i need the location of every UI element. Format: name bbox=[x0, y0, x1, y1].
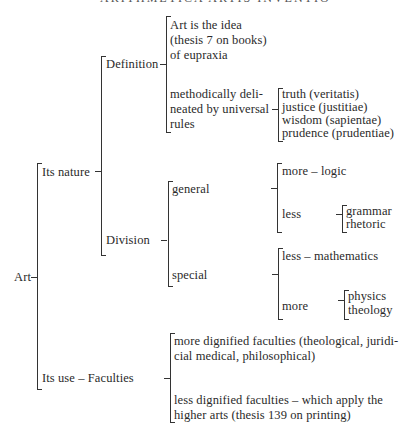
faculties-more-line2: cial medical, philosophical) bbox=[174, 349, 315, 363]
connector-division bbox=[161, 240, 167, 241]
virtue-truth: truth (veritatis) bbox=[282, 87, 359, 101]
special-more: more bbox=[282, 299, 308, 313]
faculties-less-line1: less dignified faculties – which apply t… bbox=[174, 393, 383, 407]
general-less: less bbox=[282, 207, 301, 221]
item-rhetoric: rhetoric bbox=[346, 217, 386, 231]
item-grammar: grammar bbox=[346, 204, 392, 218]
item-theology: theology bbox=[348, 303, 393, 317]
node-its-use: Its use – Faculties bbox=[42, 371, 134, 385]
bracket-art bbox=[37, 163, 42, 390]
def-idea-line3: of eupraxia bbox=[170, 48, 228, 62]
def-idea-line2: (thesis 7 on books) bbox=[170, 33, 267, 47]
def-method-line3: rules bbox=[170, 117, 195, 131]
bracket-nature bbox=[101, 56, 106, 256]
special-less-mathematics: less – mathematics bbox=[282, 249, 378, 263]
general-more-logic: more – logic bbox=[282, 164, 346, 178]
node-definition: Definition bbox=[106, 57, 158, 71]
node-general: general bbox=[172, 182, 209, 196]
node-art: Art bbox=[14, 270, 31, 284]
virtue-prudence: prudence (prudentiae) bbox=[282, 126, 394, 140]
running-head: ARITHMETICA ARTIS INVENTIO bbox=[100, 0, 331, 6]
item-physics: physics bbox=[348, 289, 386, 303]
faculties-more-line1: more dignified faculties (theological, j… bbox=[174, 334, 398, 348]
def-method-line1: methodically deli- bbox=[170, 87, 263, 101]
node-special: special bbox=[172, 268, 207, 282]
virtue-justice: justice (justitiae) bbox=[282, 100, 368, 114]
node-its-nature: Its nature bbox=[42, 165, 90, 179]
def-idea-line1: Art is the idea bbox=[170, 18, 242, 32]
node-division: Division bbox=[106, 233, 150, 247]
faculties-less-line2: higher arts (thesis 139 on printing) bbox=[174, 408, 351, 422]
virtue-wisdom: wisdom (sapientae) bbox=[282, 113, 381, 127]
def-method-line2: neated by universal bbox=[170, 102, 269, 116]
